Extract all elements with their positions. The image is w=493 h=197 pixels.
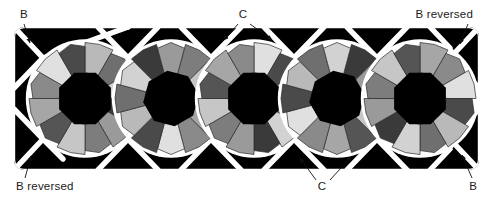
label-c-top: C (239, 8, 248, 20)
rosette-core (394, 73, 446, 125)
label-b-top-left: B (20, 8, 28, 20)
label-b-reversed-bottom-left: B reversed (16, 180, 74, 192)
label-b-reversed-top-right: B reversed (415, 8, 473, 20)
rosette-layer (26, 39, 479, 157)
rosette-core (228, 73, 280, 125)
rosette-core (59, 73, 111, 125)
label-c-bottom: C (318, 180, 327, 192)
label-b-bottom-right: B (469, 180, 477, 192)
tiling-band (14, 27, 479, 170)
tiling-band-diagram: B C B reversed B reversed C B (0, 0, 493, 197)
rosette-tile (361, 39, 479, 157)
